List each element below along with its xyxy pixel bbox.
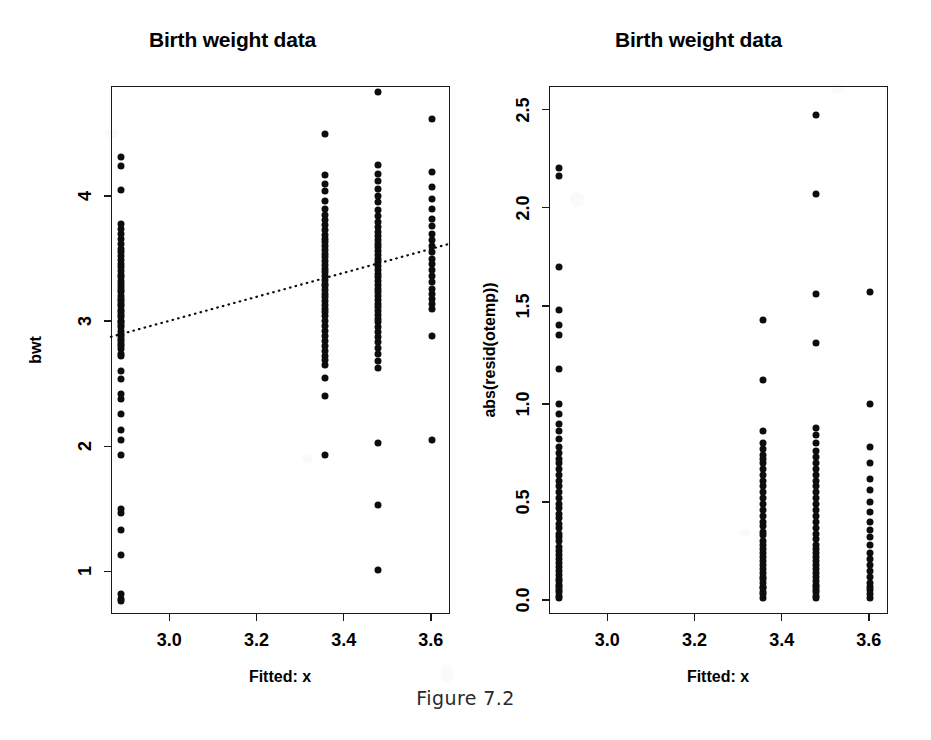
data-point (429, 115, 436, 122)
data-point (374, 219, 381, 226)
data-point (429, 266, 436, 273)
data-point (556, 173, 563, 180)
x-tick-mark (169, 614, 171, 621)
data-point (429, 279, 436, 286)
data-point (759, 316, 766, 323)
y-tick-label: 2.5 (513, 97, 534, 122)
data-point (429, 184, 436, 191)
data-point (556, 400, 563, 407)
data-point (118, 452, 125, 459)
y-tick-label: 1.5 (513, 293, 534, 318)
data-point (429, 205, 436, 212)
y-tick-label: 2 (75, 441, 96, 451)
data-point (812, 340, 819, 347)
data-point (321, 130, 328, 137)
data-point (556, 365, 563, 372)
data-point (374, 89, 381, 96)
data-point (374, 185, 381, 192)
data-point (374, 206, 381, 213)
data-point (321, 393, 328, 400)
x-tick-mark (343, 614, 345, 621)
data-point (867, 475, 874, 482)
data-point (812, 440, 819, 447)
data-point (374, 178, 381, 185)
data-point (867, 400, 874, 407)
x-tick-label: 3.2 (682, 630, 707, 651)
data-point (556, 410, 563, 417)
data-point (556, 420, 563, 427)
data-point (118, 590, 125, 597)
data-point (759, 440, 766, 447)
data-point (556, 428, 563, 435)
data-point (867, 459, 874, 466)
x-tick-mark (256, 614, 258, 621)
data-point (374, 170, 381, 177)
data-point (374, 193, 381, 200)
x-axis-title-left: Fitted: x (249, 668, 311, 686)
data-point (321, 205, 328, 212)
data-point (374, 439, 381, 446)
data-point (759, 428, 766, 435)
y-tick-mark (542, 305, 549, 307)
data-point (321, 171, 328, 178)
data-point (429, 236, 436, 243)
data-point (321, 198, 328, 205)
data-point (374, 161, 381, 168)
data-point (321, 188, 328, 195)
data-point (374, 213, 381, 220)
data-point (118, 427, 125, 434)
data-point (429, 285, 436, 292)
data-point (429, 249, 436, 256)
data-point (867, 289, 874, 296)
data-point (429, 169, 436, 176)
data-point (867, 542, 874, 549)
data-point (118, 552, 125, 559)
x-tick-label: 3.6 (856, 630, 881, 651)
data-point (118, 163, 125, 170)
data-point (429, 255, 436, 262)
x-tick-label: 3.6 (418, 630, 443, 651)
data-point (321, 374, 328, 381)
y-tick-mark (542, 599, 549, 601)
data-point (812, 291, 819, 298)
data-point (867, 550, 874, 557)
data-point (429, 437, 436, 444)
data-point (429, 215, 436, 222)
data-point (118, 437, 125, 444)
x-tick-label: 3.2 (244, 630, 269, 651)
y-tick-mark (542, 403, 549, 405)
data-point (374, 502, 381, 509)
y-tick-mark (104, 195, 111, 197)
x-tick-mark (868, 614, 870, 621)
data-point (429, 243, 436, 250)
plot-panel-right: Birth weight data 3.03.23.43.60.00.51.01… (466, 0, 931, 700)
data-point (118, 505, 125, 512)
data-point (556, 322, 563, 329)
y-tick-label: 0.5 (513, 490, 534, 515)
x-axis-title-right: Fitted: x (687, 668, 749, 686)
y-tick-label: 0.0 (513, 588, 534, 613)
data-point (867, 508, 874, 515)
y-axis-title-left: bwt (27, 336, 45, 364)
x-tick-label: 3.4 (769, 630, 794, 651)
data-point (812, 424, 819, 431)
data-point (812, 190, 819, 197)
y-tick-label: 3 (75, 316, 96, 326)
x-tick-label: 3.0 (595, 630, 620, 651)
data-point (812, 448, 819, 455)
data-point (867, 499, 874, 506)
data-point (556, 165, 563, 172)
data-point (556, 306, 563, 313)
data-point (374, 199, 381, 206)
x-tick-label: 3.4 (331, 630, 356, 651)
data-point (374, 364, 381, 371)
y-tick-mark (104, 320, 111, 322)
data-point (118, 154, 125, 161)
data-point (429, 223, 436, 230)
data-point (118, 527, 125, 534)
data-point (867, 444, 874, 451)
data-point (556, 332, 563, 339)
x-tick-mark (694, 614, 696, 621)
data-point (321, 180, 328, 187)
y-tick-label: 1.0 (513, 391, 534, 416)
